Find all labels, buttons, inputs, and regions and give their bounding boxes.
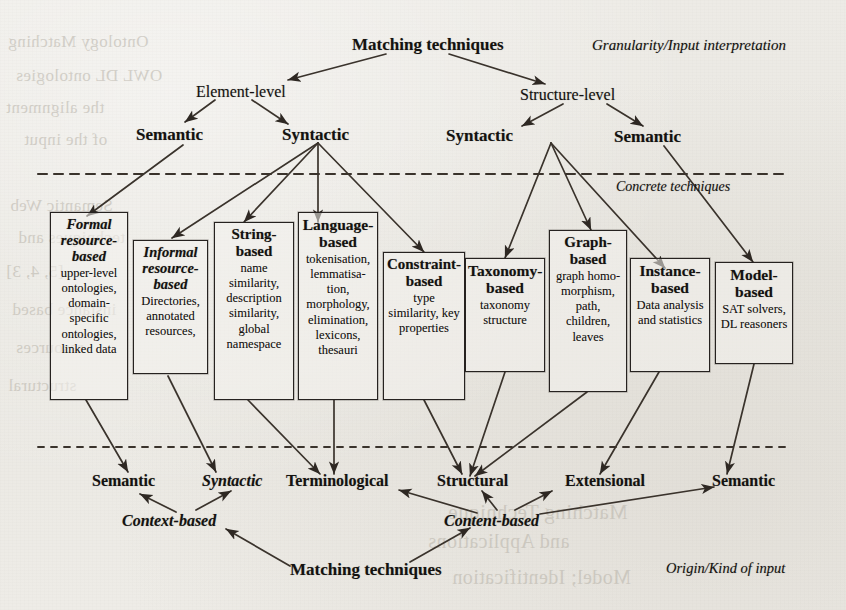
node-element-syntactic: Syntactic <box>282 126 349 143</box>
node-structure-semantic: Semantic <box>614 128 681 145</box>
box-title: Graph- based <box>552 234 624 268</box>
box-body: name similarity, description similarity,… <box>217 261 291 353</box>
node-context-based: Context-based <box>122 513 216 529</box>
node-lower-semantic-left: Semantic <box>92 473 155 489</box>
axis-label-concrete-techniques: Concrete techniques <box>616 180 730 194</box>
box-title: String- based <box>217 226 291 260</box>
box-title: Constraint- based <box>386 256 462 290</box>
technique-box-informal-resource-based: Informal resource- based Directories, an… <box>133 240 208 374</box>
technique-box-constraint-based: Constraint- based type similarity, key p… <box>383 252 465 400</box>
bottom-root-label: Matching techniques <box>290 561 442 578</box>
node-lower-semantic-right: Semantic <box>712 473 775 489</box>
technique-box-string-based: String- based name similarity, descripti… <box>214 222 294 400</box>
node-content-based: Content-based <box>444 513 539 529</box>
box-body: Data analysis and statistics <box>633 298 707 329</box>
node-lower-structural: Structural <box>437 473 508 489</box>
technique-box-model-based: Model- based SAT solvers, DL reasoners <box>715 262 793 364</box>
node-lower-terminological: Terminological <box>286 473 389 489</box>
box-body: tokenisation, lemmatisa- tion, morpholog… <box>301 252 375 359</box>
box-title: Language- based <box>301 216 375 251</box>
node-structure-syntactic: Syntactic <box>446 127 513 144</box>
box-body: SAT solvers, DL reasoners <box>718 302 790 333</box>
box-body: Directories, annotated resources, <box>136 294 205 340</box>
node-lower-syntactic: Syntactic <box>202 473 262 489</box>
box-body: taxonomy structure <box>468 298 542 329</box>
technique-box-taxonomy-based: Taxonomy- based taxonomy structure <box>465 258 545 372</box>
node-lower-extensional: Extensional <box>565 473 645 489</box>
box-title: Informal resource- based <box>136 244 205 293</box>
top-root-label: Matching techniques <box>352 36 504 53</box>
technique-box-instance-based: Instance- based Data analysis and statis… <box>630 258 710 372</box>
box-body: upper-level ontologies, domain- specific… <box>53 266 125 358</box>
axis-label-granularity: Granularity/Input interpretation <box>592 38 786 53</box>
box-body: type similarity, key properties <box>386 291 462 337</box>
box-title: Model- based <box>718 266 790 301</box>
node-element-level: Element-level <box>196 84 286 100</box>
node-structure-level: Structure-level <box>520 87 615 103</box>
box-title: Taxonomy- based <box>468 262 542 297</box>
node-element-semantic: Semantic <box>136 126 203 143</box>
axis-label-origin: Origin/Kind of input <box>666 561 785 576</box>
technique-box-formal-resource-based: Formal resource- based upper-level ontol… <box>50 212 128 400</box>
box-title: Formal resource- based <box>53 216 125 265</box>
box-title: Instance- based <box>633 262 707 297</box>
technique-box-language-based: Language- based tokenisation, lemmatisa-… <box>298 212 378 400</box>
technique-box-graph-based: Graph- based graph homo- morphism, path,… <box>549 230 627 392</box>
box-body: graph homo- morphism, path, children, le… <box>552 269 624 345</box>
